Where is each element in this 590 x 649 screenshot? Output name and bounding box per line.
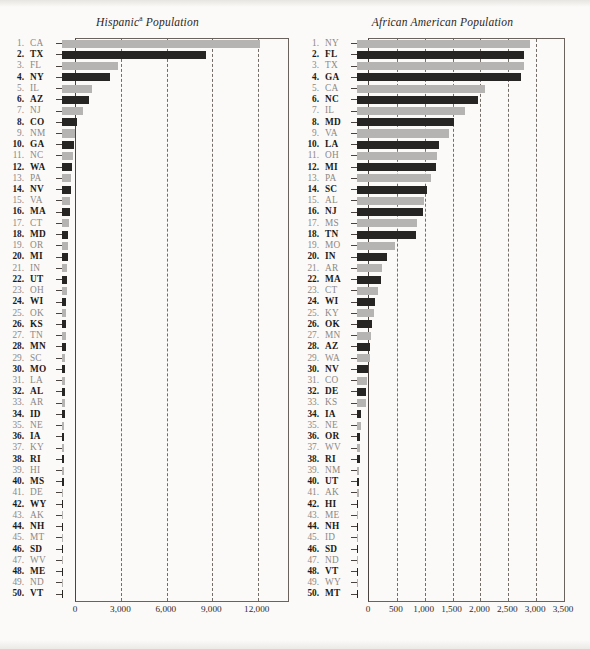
bar-track — [357, 420, 590, 431]
row-state-label: ID — [24, 410, 56, 419]
bar-row: 45.MT — [0, 532, 295, 543]
bar-track — [62, 341, 295, 352]
row-state-label: GA — [24, 140, 56, 149]
bar — [357, 467, 359, 475]
row-rank-label: 30. — [295, 365, 319, 374]
bar-row: 50.MT — [295, 588, 590, 599]
bar — [62, 298, 66, 306]
bar — [357, 579, 358, 587]
bar-row: 36.IA — [0, 431, 295, 442]
row-state-label: CA — [24, 39, 56, 48]
bar-row: 34.IA — [295, 409, 590, 420]
bar-track — [62, 195, 295, 206]
row-rank-label: 23. — [295, 286, 319, 295]
row-state-label: IL — [24, 84, 56, 93]
bar-track — [357, 218, 590, 229]
row-state-label: IN — [319, 252, 351, 261]
row-state-label: NE — [24, 421, 56, 430]
row-state-label: ND — [24, 578, 56, 587]
bar-row: 3.FL — [0, 60, 295, 71]
row-rank-label: 15. — [295, 196, 319, 205]
bar-row: 42.HI — [295, 499, 590, 510]
bar — [357, 556, 358, 564]
bar — [62, 545, 63, 553]
row-state-label: NY — [24, 73, 56, 82]
row-rank-label: 2. — [0, 50, 24, 59]
row-state-label: VT — [24, 589, 56, 598]
row-rank-label: 4. — [0, 73, 24, 82]
row-state-label: NV — [24, 185, 56, 194]
bar — [357, 219, 417, 227]
bar-track — [62, 510, 295, 521]
row-state-label: SC — [319, 185, 351, 194]
bar-row: 23.CT — [295, 285, 590, 296]
row-state-label: ND — [319, 556, 351, 565]
bar — [357, 590, 358, 598]
x-axis-tick-label: 9,000 — [201, 604, 222, 614]
x-axis-tick-label: 1,500 — [441, 604, 462, 614]
row-rank-label: 19. — [295, 241, 319, 250]
bar — [357, 287, 378, 295]
bar — [357, 96, 478, 104]
bar-row: 12.MI — [295, 162, 590, 173]
row-state-label: MS — [319, 219, 351, 228]
row-state-label: VA — [319, 129, 351, 138]
chart-title-main-text: African American Population — [372, 16, 513, 28]
x-axis-tick-label: 3,000 — [525, 604, 546, 614]
row-rank-label: 44. — [0, 522, 24, 531]
chart-title-african-american: African American Population — [295, 14, 590, 28]
bar-row: 40.UT — [295, 476, 590, 487]
x-axis-tick-label: 2,000 — [469, 604, 490, 614]
bar-track — [62, 94, 295, 105]
x-axis-tick-label: 0 — [366, 604, 371, 614]
bar-track — [357, 476, 590, 487]
bar-row: 41.DE — [0, 487, 295, 498]
bar-track — [357, 83, 590, 94]
bar-track — [62, 60, 295, 71]
bar-track — [357, 465, 590, 476]
bar-row: 38.RI — [295, 454, 590, 465]
bar-rows-african-american: 1.NY2.FL3.TX4.GA5.CA6.NC7.IL8.MD9.VA10.L… — [295, 38, 590, 600]
row-rank-label: 16. — [295, 207, 319, 216]
bar-row: 33.AR — [0, 398, 295, 409]
row-rank-label: 9. — [295, 129, 319, 138]
row-rank-label: 1. — [0, 39, 24, 48]
bar-track — [357, 577, 590, 588]
row-rank-label: 18. — [0, 230, 24, 239]
row-rank-label: 3. — [295, 61, 319, 70]
bar-row: 47.WV — [0, 555, 295, 566]
bar — [62, 511, 63, 519]
bar-track — [62, 105, 295, 116]
row-rank-label: 32. — [0, 387, 24, 396]
bar — [357, 320, 372, 328]
row-rank-label: 48. — [295, 567, 319, 576]
bar-track — [357, 173, 590, 184]
bar-row: 46.SD — [0, 544, 295, 555]
row-state-label: AL — [319, 196, 351, 205]
bar — [357, 534, 358, 542]
bar — [62, 377, 65, 385]
chart-title-main-text: Hispanic — [96, 16, 139, 28]
bar-row: 13.PA — [295, 173, 590, 184]
bar-track — [357, 375, 590, 386]
bar-track — [62, 128, 295, 139]
row-rank-label: 35. — [295, 421, 319, 430]
row-state-label: CO — [24, 118, 56, 127]
bar-track — [357, 521, 590, 532]
row-rank-label: 12. — [295, 163, 319, 172]
row-rank-label: 8. — [295, 118, 319, 127]
row-state-label: SD — [24, 545, 56, 554]
bar-track — [357, 72, 590, 83]
bar-track — [357, 105, 590, 116]
row-rank-label: 42. — [295, 500, 319, 509]
row-state-label: IA — [24, 432, 56, 441]
bar-track — [62, 251, 295, 262]
bar-track — [357, 398, 590, 409]
row-state-label: RI — [24, 455, 56, 464]
bar-row: 48.VT — [295, 566, 590, 577]
bar — [62, 556, 63, 564]
row-rank-label: 3. — [0, 61, 24, 70]
row-state-label: IL — [319, 106, 351, 115]
bar-row: 47.ND — [295, 555, 590, 566]
bar-row: 49.ND — [0, 577, 295, 588]
